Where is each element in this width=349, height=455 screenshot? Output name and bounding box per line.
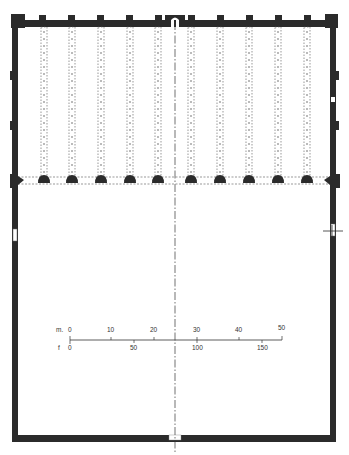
doorways [13,97,343,440]
metric-tick-30: 30 [193,326,201,333]
imperial-tick-50: 50 [130,344,138,351]
metric-tick-0: 0 [68,326,72,333]
outer-walls [12,20,337,442]
scale-bar: m. f 0 10 20 30 40 50 0 50 100 150 [56,324,286,351]
imperial-tick-100: 100 [192,344,203,351]
piers [18,175,330,185]
metric-tick-10: 10 [107,326,115,333]
imperial-tick-0: 0 [68,344,72,351]
imperial-tick-150: 150 [257,344,268,351]
metric-tick-40: 40 [235,326,243,333]
metric-tick-20: 20 [150,326,158,333]
metric-unit-label: m. [56,326,63,333]
mosque-floor-plan: m. f 0 10 20 30 40 50 0 50 100 150 [0,0,349,455]
side-buttresses [10,71,340,188]
arcades [41,27,310,178]
imperial-unit-label: f [58,344,60,351]
column-dots [43,31,307,172]
metric-tick-50: 50 [278,324,286,331]
